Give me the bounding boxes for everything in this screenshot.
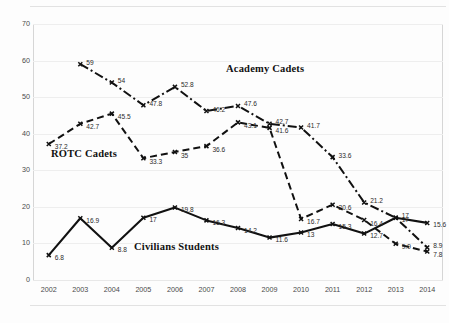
series-layer — [0, 0, 449, 323]
data-label-civilians-students-2004: 8.8 — [118, 246, 127, 253]
data-label-civilians-students-2008: 14.2 — [244, 227, 257, 234]
data-label-civilians-students-2014: 15.6 — [433, 221, 446, 228]
data-label-civilians-students-2006: 19.8 — [181, 206, 194, 213]
data-label-civilians-students-2011: 15.3 — [339, 223, 352, 230]
data-point-marker — [362, 218, 366, 222]
data-label-civilians-students-2003: 16.9 — [86, 217, 99, 224]
data-label-rotc-cadets-2012: 16.4 — [370, 220, 383, 227]
line-chart: 010203040506070 200220032004200520062007… — [0, 0, 449, 323]
data-label-rotc-cadets-2013: 9.9 — [402, 243, 411, 250]
data-point-marker — [236, 120, 240, 124]
data-label-rotc-cadets-2011: 20.6 — [339, 204, 352, 211]
data-label-academy-cadets-2012: 21.2 — [370, 197, 383, 204]
data-point-marker — [204, 109, 208, 113]
data-label-rotc-cadets-2005: 33.3 — [149, 158, 162, 165]
data-label-academy-cadets-2005: 47.8 — [149, 100, 162, 107]
data-label-rotc-cadets-2010: 16.7 — [307, 218, 320, 225]
data-label-civilians-students-2010: 13 — [307, 231, 314, 238]
series-annotation-civilians-students: Civilians Students — [134, 241, 219, 252]
series-annotation-academy-cadets: Academy Cadets — [226, 63, 304, 74]
data-label-academy-cadets-2010: 41.7 — [307, 122, 320, 129]
data-label-civilians-students-2013: 17 — [402, 216, 409, 223]
data-label-academy-cadets-2003: 59 — [86, 59, 93, 66]
data-label-academy-cadets-2011: 33.6 — [339, 152, 352, 159]
data-label-rotc-cadets-2008: 43.1 — [244, 122, 257, 129]
data-label-academy-cadets-2007: 46.2 — [212, 106, 225, 113]
series-annotation-rotc-cadets: ROTC Cadets — [51, 148, 117, 159]
data-label-rotc-cadets-2014: 7.8 — [433, 251, 442, 258]
data-label-rotc-cadets-2007: 36.6 — [212, 146, 225, 153]
data-label-rotc-cadets-2006: 35 — [181, 152, 188, 159]
data-label-academy-cadets-2008: 47.6 — [244, 100, 257, 107]
data-label-civilians-students-2009: 11.6 — [276, 236, 288, 243]
data-label-rotc-cadets-2003: 42.7 — [86, 123, 99, 130]
data-label-civilians-students-2002: 6.8 — [55, 254, 64, 261]
data-label-civilians-students-2007: 16.3 — [212, 219, 225, 226]
data-label-academy-cadets-2006: 52.8 — [181, 81, 194, 88]
data-label-academy-cadets-2004: 54 — [118, 77, 125, 84]
data-label-academy-cadets-2014: 8.9 — [433, 242, 442, 249]
data-label-rotc-cadets-2009: 41.6 — [276, 127, 289, 134]
data-label-civilians-students-2005: 17 — [149, 216, 156, 223]
data-label-academy-cadets-2009: 42.7 — [276, 118, 289, 125]
data-label-rotc-cadets-2004: 45.5 — [118, 113, 131, 120]
data-label-civilians-students-2012: 12.7 — [370, 232, 383, 239]
